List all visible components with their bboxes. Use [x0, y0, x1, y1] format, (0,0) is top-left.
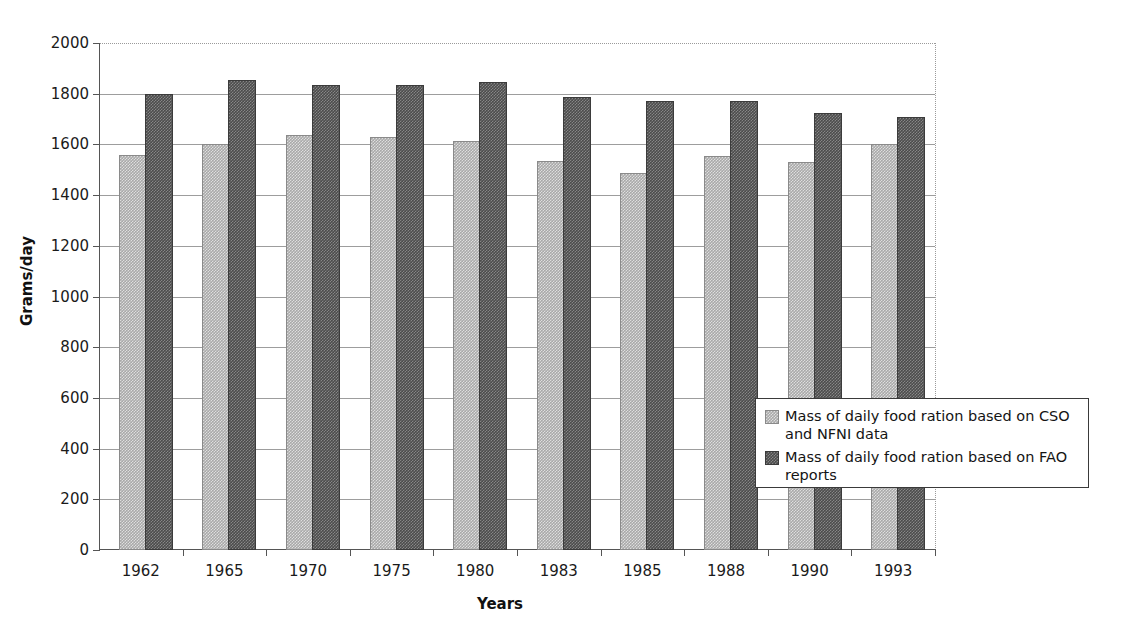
x-axis-title: Years	[0, 595, 1000, 613]
bar	[286, 135, 314, 550]
y-axis-tick	[93, 144, 100, 145]
legend-label-series-1: Mass of daily food ration based on FAO r…	[785, 448, 1078, 484]
y-axis-tick	[93, 246, 100, 247]
x-axis-tick-label: 1970	[263, 562, 353, 580]
x-axis-tick-label: 1980	[430, 562, 520, 580]
legend-swatch-icon-series-1	[765, 451, 779, 465]
y-axis-tick	[93, 195, 100, 196]
x-axis-tick	[601, 549, 602, 556]
bar	[646, 101, 674, 550]
x-axis-tick	[517, 549, 518, 556]
bar	[312, 85, 340, 550]
legend-swatch-icon-series-0	[765, 410, 779, 424]
x-axis-tick	[768, 549, 769, 556]
x-axis-tick-label: 1990	[765, 562, 855, 580]
bar	[788, 162, 816, 550]
chart-legend: Mass of daily food ration based on CSO a…	[755, 398, 1089, 488]
bar	[563, 97, 591, 550]
x-axis-tick-label: 1962	[96, 562, 186, 580]
y-axis-tick-label: 0	[29, 541, 89, 559]
legend-item-series-0: Mass of daily food ration based on CSO a…	[765, 407, 1078, 443]
legend-item-series-1: Mass of daily food ration based on FAO r…	[765, 448, 1078, 484]
y-axis-tick	[93, 499, 100, 500]
x-axis-tick	[433, 549, 434, 556]
x-axis-tick	[266, 549, 267, 556]
bar	[537, 161, 565, 550]
y-axis-tick	[93, 297, 100, 298]
y-axis-tick-label: 600	[29, 389, 89, 407]
bar	[145, 94, 173, 550]
bar	[479, 82, 507, 550]
x-axis-tick-label: 1983	[514, 562, 604, 580]
y-axis-tick	[93, 347, 100, 348]
bar	[396, 85, 424, 550]
x-axis-tick	[350, 549, 351, 556]
y-axis-tick-label: 1200	[29, 237, 89, 255]
y-axis-tick-label: 1000	[29, 288, 89, 306]
y-axis-tick-label: 1800	[29, 85, 89, 103]
x-axis-tick	[684, 549, 685, 556]
bar	[704, 156, 732, 550]
bar-chart: Grams/day Years 020040060080010001200140…	[0, 0, 1121, 637]
bar	[730, 101, 758, 550]
x-axis-tick-label: 1988	[681, 562, 771, 580]
y-axis-tick-label: 2000	[29, 34, 89, 52]
gridline	[99, 94, 935, 95]
y-axis-tick-label: 400	[29, 440, 89, 458]
gridline	[99, 43, 935, 44]
y-axis-tick	[93, 449, 100, 450]
bar	[202, 144, 230, 550]
y-axis-tick	[93, 94, 100, 95]
y-axis-tick-label: 200	[29, 490, 89, 508]
bar	[119, 155, 147, 550]
y-axis-tick-label: 800	[29, 338, 89, 356]
bar	[620, 173, 648, 550]
x-axis-tick-label: 1965	[179, 562, 269, 580]
legend-label-series-0: Mass of daily food ration based on CSO a…	[785, 407, 1078, 443]
bar	[228, 80, 256, 550]
y-axis-tick-label: 1600	[29, 135, 89, 153]
x-axis-tick	[935, 549, 936, 556]
bar	[871, 144, 899, 550]
y-axis-tick-label: 1400	[29, 186, 89, 204]
y-axis-tick	[93, 43, 100, 44]
bar	[453, 141, 481, 550]
x-axis-tick-label: 1993	[848, 562, 938, 580]
x-axis-tick	[183, 549, 184, 556]
bar	[370, 137, 398, 550]
x-axis-tick	[851, 549, 852, 556]
x-axis-tick-label: 1975	[347, 562, 437, 580]
y-axis-tick	[93, 398, 100, 399]
x-axis-tick-label: 1985	[597, 562, 687, 580]
y-axis-tick	[93, 550, 100, 551]
